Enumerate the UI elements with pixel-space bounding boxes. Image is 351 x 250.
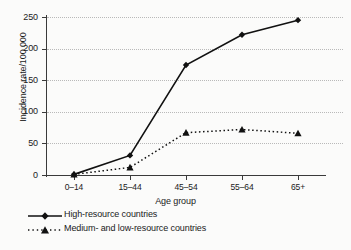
legend-key-dotted-triangle-icon: [26, 222, 64, 234]
legend: High-resource countries Medium- and low-…: [26, 207, 346, 235]
data-point-1-2: [182, 129, 189, 136]
legend-key-solid-diamond-icon: [26, 208, 64, 220]
series-line-1: [74, 130, 298, 175]
legend-item-medium-low-resource: Medium- and low-resource countries: [26, 221, 346, 235]
legend-item-high-resource: High-resource countries: [26, 207, 346, 221]
legend-label-medium-low-resource: Medium- and low-resource countries: [64, 223, 206, 233]
data-point-0-3: [239, 31, 245, 37]
chart-figure: 250 200 150 100 50 0 0–14 15–44 45–54 55…: [0, 0, 351, 250]
data-point-1-4: [294, 130, 301, 137]
legend-label-high-resource: High-resource countries: [64, 209, 157, 219]
series-line-0: [74, 20, 298, 174]
data-point-0-4: [295, 17, 301, 23]
